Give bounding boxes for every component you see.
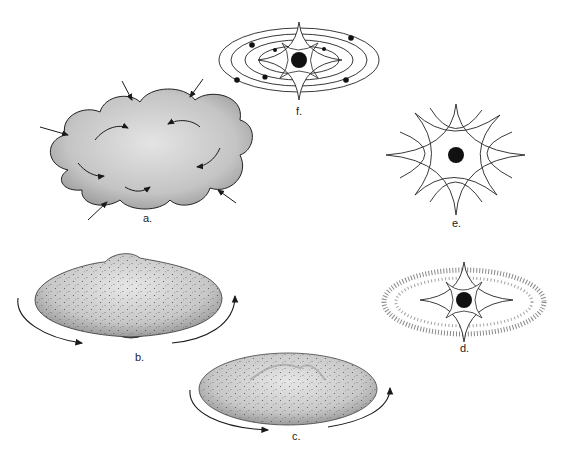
panel-d-label: d. xyxy=(460,342,469,354)
panel-b-flattened-cloud: b. xyxy=(18,254,235,363)
panel-a-cloud: a. xyxy=(40,79,252,224)
panel-e-label: e. xyxy=(452,217,461,229)
panel-b-label: b. xyxy=(135,351,144,363)
panel-d-star-ring: d. xyxy=(384,262,544,354)
panel-a-label: a. xyxy=(143,212,152,224)
panel-c-disk: c. xyxy=(190,353,390,442)
panel-c-label: c. xyxy=(292,430,301,442)
panel-f-planetary-system: f. xyxy=(219,22,379,117)
panel-e-radiating-star: e. xyxy=(386,104,525,229)
formation-diagram: a. b. c. d. xyxy=(0,0,567,458)
panel-f-label: f. xyxy=(296,105,302,117)
cloud-shape xyxy=(50,89,252,209)
